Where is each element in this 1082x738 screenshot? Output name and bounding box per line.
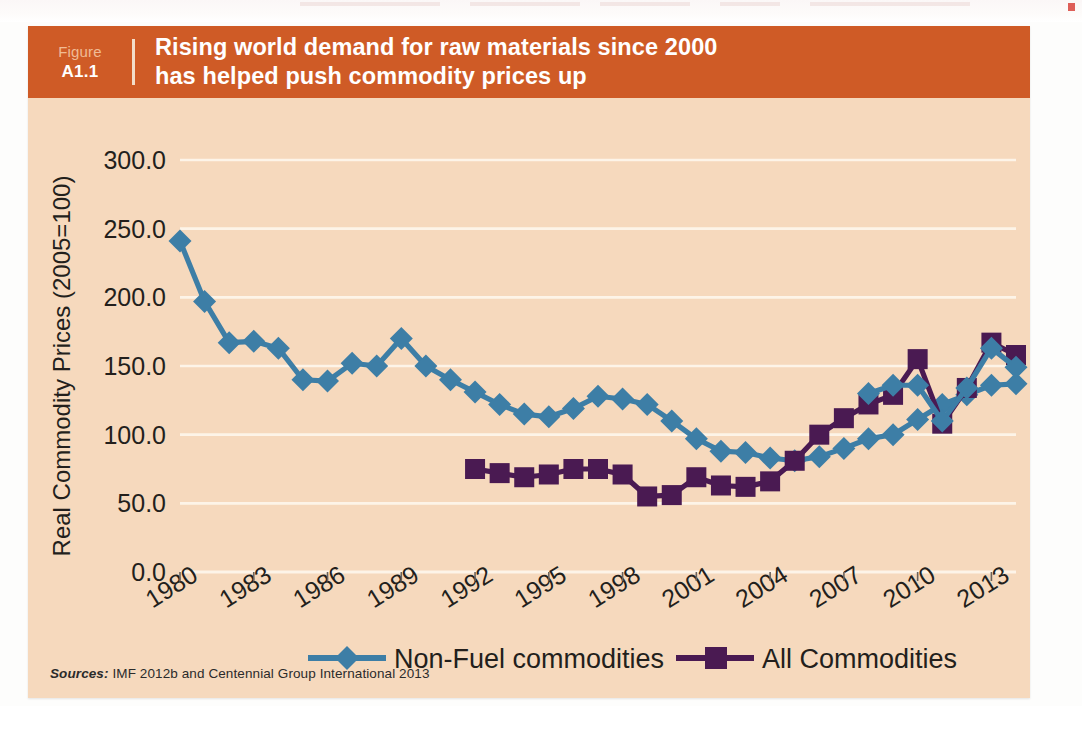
svg-text:1986: 1986 xyxy=(288,560,350,613)
series-marker xyxy=(785,451,805,471)
y-axis-title: Real Commodity Prices (2005=100) xyxy=(48,176,75,557)
y-tick-label: 250.0 xyxy=(103,215,166,243)
y-axis-title-text: Real Commodity Prices (2005=100) xyxy=(48,176,75,557)
series-marker xyxy=(169,230,192,253)
series-marker xyxy=(736,477,756,497)
chart-series-layer xyxy=(169,230,1028,507)
series-marker xyxy=(711,475,731,495)
y-tick-label: 50.0 xyxy=(117,489,166,517)
x-tick-label: 2007 xyxy=(804,560,866,613)
y-axis-tick-labels: 0.050.0100.0150.0200.0250.0300.0 xyxy=(103,146,166,586)
scan-artifact-mark xyxy=(470,2,580,6)
x-tick-label: 1995 xyxy=(509,560,571,613)
series-marker xyxy=(908,349,928,369)
series-marker xyxy=(439,368,462,391)
series-marker xyxy=(882,423,905,446)
series-marker xyxy=(488,393,511,416)
sources-note: Sources: IMF 2012b and Centennial Group … xyxy=(50,666,430,681)
series-marker xyxy=(562,397,585,420)
sources-text: IMF 2012b and Centennial Group Internati… xyxy=(112,666,429,681)
series-marker xyxy=(734,441,757,464)
x-tick-label: 2010 xyxy=(878,560,940,613)
series-marker xyxy=(709,440,732,463)
series-marker xyxy=(637,486,657,506)
x-tick-label: 1989 xyxy=(362,560,424,613)
series-marker xyxy=(218,331,241,354)
series-marker xyxy=(465,459,485,479)
scan-artifact-strip xyxy=(0,0,1082,22)
chart-gridlines xyxy=(180,160,1016,572)
series-marker xyxy=(539,464,559,484)
series-marker xyxy=(808,445,831,468)
legend-label: All Commodities xyxy=(762,644,957,674)
svg-text:1995: 1995 xyxy=(509,560,571,613)
svg-text:1983: 1983 xyxy=(214,560,276,613)
band-divider xyxy=(132,39,135,85)
svg-text:2007: 2007 xyxy=(804,560,866,613)
svg-text:1989: 1989 xyxy=(362,560,424,613)
x-axis-tick-labels: 1980198319861989199219951998200120042007… xyxy=(140,560,1013,613)
x-tick-label: 1992 xyxy=(435,560,497,613)
series-marker xyxy=(759,447,782,470)
svg-text:1992: 1992 xyxy=(435,560,497,613)
y-tick-label: 150.0 xyxy=(103,352,166,380)
series-marker xyxy=(906,408,929,431)
series-marker xyxy=(490,463,510,483)
figure-label: Figure xyxy=(58,42,102,61)
series-marker xyxy=(662,485,682,505)
page-root: Figure A1.1 Rising world demand for raw … xyxy=(0,0,1082,738)
series-marker xyxy=(809,425,829,445)
scan-artifact-mark xyxy=(810,2,970,6)
x-tick-label: 2004 xyxy=(730,560,792,613)
series-marker xyxy=(587,385,610,408)
scan-artifact-mark xyxy=(600,2,690,6)
x-tick-label: 1986 xyxy=(288,560,350,613)
series-marker xyxy=(834,408,854,428)
scan-artifact-dot xyxy=(1068,3,1075,11)
y-tick-label: 300.0 xyxy=(103,146,166,174)
series-marker xyxy=(588,459,608,479)
scan-artifact-mark xyxy=(720,2,780,6)
svg-text:2001: 2001 xyxy=(657,560,719,613)
sources-label: Sources: xyxy=(50,666,109,681)
figure-title-line-1: Rising world demand for raw materials si… xyxy=(155,33,717,62)
series-marker xyxy=(686,467,706,487)
series-marker xyxy=(832,437,855,460)
figure-number-block: Figure A1.1 xyxy=(28,26,132,98)
series-marker xyxy=(193,290,216,313)
page-bottom-margin xyxy=(0,706,1082,738)
svg-text:2010: 2010 xyxy=(878,560,940,613)
y-tick-label: 200.0 xyxy=(103,283,166,311)
commodity-price-line-chart: 0.050.0100.0150.0200.0250.0300.0 1980198… xyxy=(28,98,1030,698)
series-marker xyxy=(513,403,536,426)
figure-card: Figure A1.1 Rising world demand for raw … xyxy=(28,26,1030,698)
series-marker xyxy=(611,387,634,410)
svg-text:1998: 1998 xyxy=(583,560,645,613)
x-tick-label: 2001 xyxy=(657,560,719,613)
series-marker xyxy=(242,330,265,353)
svg-text:2013: 2013 xyxy=(952,560,1014,613)
x-tick-label: 2013 xyxy=(952,560,1014,613)
series-marker xyxy=(760,471,780,491)
figure-title-line-2: has helped push commodity prices up xyxy=(155,62,717,91)
series-marker xyxy=(857,427,880,450)
series-marker xyxy=(537,405,560,428)
series-marker xyxy=(514,467,534,487)
series-marker xyxy=(613,464,633,484)
series-marker xyxy=(563,459,583,479)
series-marker xyxy=(464,381,487,404)
figure-title-band: Figure A1.1 Rising world demand for raw … xyxy=(28,26,1030,98)
figure-title: Rising world demand for raw materials si… xyxy=(155,33,733,91)
x-tick-label: 1983 xyxy=(214,560,276,613)
scan-artifact-mark xyxy=(300,2,440,6)
legend-label: Non-Fuel commodities xyxy=(394,644,664,674)
chart-area: 0.050.0100.0150.0200.0250.0300.0 1980198… xyxy=(28,98,1030,698)
svg-text:2004: 2004 xyxy=(730,560,792,613)
x-tick-label: 1998 xyxy=(583,560,645,613)
legend-swatch-marker xyxy=(705,647,727,669)
figure-number: A1.1 xyxy=(61,61,98,82)
series-marker xyxy=(980,374,1003,397)
legend-item: All Commodities xyxy=(676,644,957,674)
y-tick-label: 100.0 xyxy=(103,421,166,449)
